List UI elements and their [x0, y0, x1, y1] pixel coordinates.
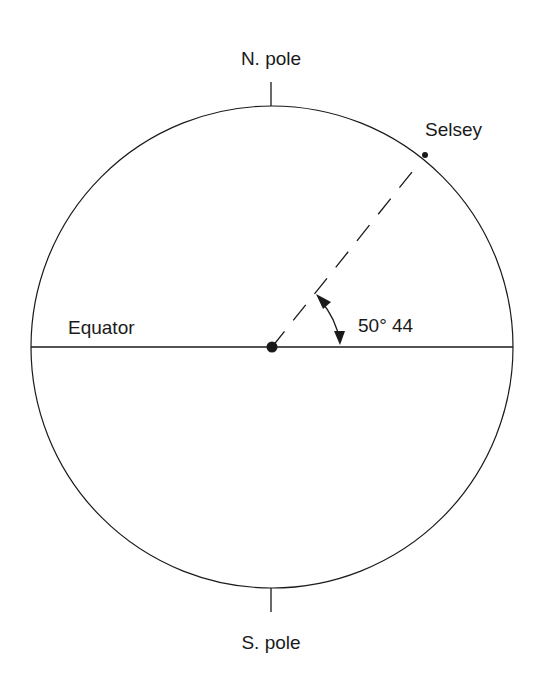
angle-arrowhead-top — [316, 294, 331, 309]
angle-label: 50° 44 — [358, 315, 414, 336]
equator-label: Equator — [68, 317, 135, 338]
south-pole-label: S. pole — [241, 632, 300, 653]
north-pole-label: N. pole — [241, 48, 301, 69]
selsey-label: Selsey — [425, 119, 483, 140]
angle-arrowhead-bottom — [334, 331, 345, 345]
selsey-dot — [422, 152, 428, 158]
earth-center-dot — [267, 342, 278, 353]
latitude-diagram: N. pole S. pole Equator Selsey 50° 44 — [0, 0, 536, 687]
